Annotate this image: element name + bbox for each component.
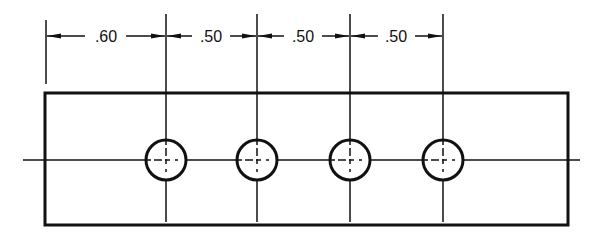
technical-drawing: .60 .50 .50 .50 — [0, 0, 589, 236]
dimension-2: .50 — [258, 28, 349, 45]
hole-3 — [330, 140, 370, 180]
dimension-label-3: .50 — [385, 28, 407, 45]
dimension-0: .60 — [47, 28, 165, 45]
dimension-label-1: .50 — [200, 28, 222, 45]
dimension-1: .50 — [167, 28, 256, 45]
hole-4 — [423, 140, 463, 180]
hole-1 — [146, 140, 186, 180]
hole-2 — [237, 140, 277, 180]
dimension-label-2: .50 — [292, 28, 314, 45]
dimension-3: .50 — [351, 28, 442, 45]
dimension-label-0: .60 — [95, 28, 117, 45]
plate-outline — [45, 93, 568, 225]
